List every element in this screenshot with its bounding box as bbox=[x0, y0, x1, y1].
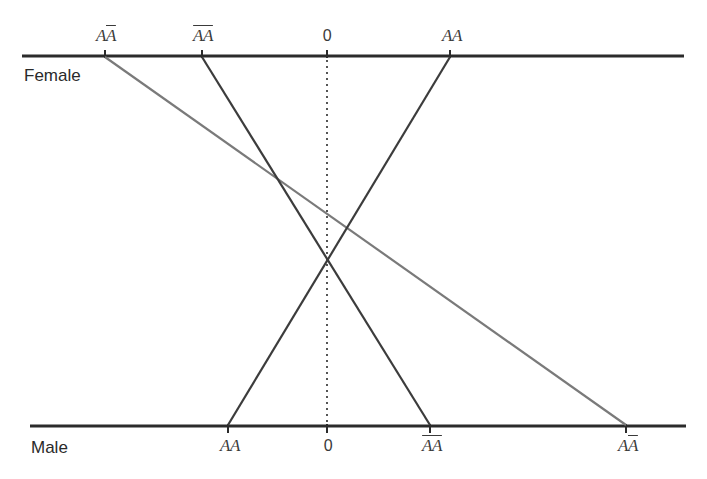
female-label-abarabar: AA bbox=[193, 26, 213, 46]
male-label-abarabar: AA bbox=[422, 436, 442, 456]
male-label-aabar: AA bbox=[618, 436, 638, 456]
label-barred-a: A bbox=[422, 436, 432, 455]
female-label-aabar: AA bbox=[96, 26, 116, 46]
female-axis-label: Female bbox=[24, 66, 81, 86]
male-axis-label: Male bbox=[31, 438, 68, 458]
connection-aa bbox=[228, 57, 450, 425]
label-barred-a: A bbox=[628, 436, 638, 455]
connection-abarabar bbox=[202, 57, 430, 425]
connection-aabar bbox=[105, 57, 626, 425]
label-plain-a: A bbox=[618, 436, 628, 455]
label-barred-a: A bbox=[432, 436, 442, 455]
female-label-zero: 0 bbox=[323, 27, 331, 45]
label-barred-a: A bbox=[106, 26, 116, 45]
male-label-aa: AA bbox=[220, 436, 240, 456]
female-label-aa: AA bbox=[442, 26, 462, 46]
genotype-diagram bbox=[0, 0, 707, 479]
label-plain-a: A bbox=[96, 26, 106, 45]
label-barred-a: A bbox=[193, 26, 203, 45]
male-label-zero: 0 bbox=[324, 437, 332, 455]
label-barred-a: A bbox=[203, 26, 213, 45]
